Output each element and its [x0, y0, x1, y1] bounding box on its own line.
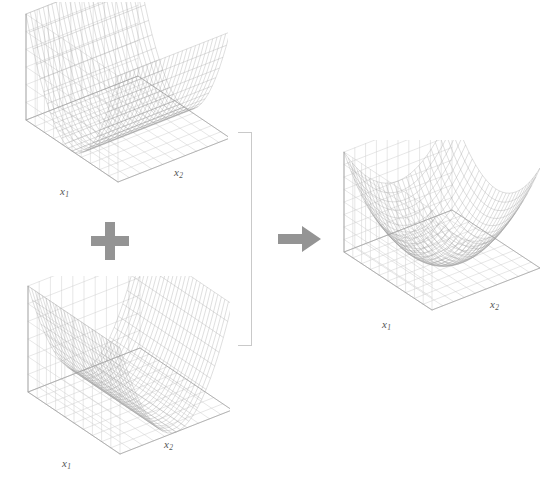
axis-label-x2-term-2: x2: [164, 438, 173, 450]
surface-mesh-result: [330, 140, 540, 355]
surface-mesh-term-2: [10, 276, 230, 484]
right-arrow-icon: [278, 224, 322, 254]
figure-canvas: x1 x2 x1 x2 x1 x2: [0, 0, 541, 486]
surface-mesh-term-1: [8, 2, 228, 217]
surface-plot-term-2: x1 x2: [10, 276, 230, 484]
plus-sign-icon: [91, 222, 129, 260]
surface-plot-result: x1 x2: [330, 140, 540, 355]
axis-label-x1-term-1: x1: [60, 185, 69, 197]
surface-plot-term-1: x1 x2: [8, 2, 228, 217]
plus-vertical-bar: [105, 222, 115, 260]
axis-label-x1-result: x1: [382, 318, 391, 330]
right-bracket-icon: [238, 132, 252, 346]
arrow-glyph: [278, 224, 322, 254]
axis-label-x2-result: x2: [490, 298, 499, 310]
axis-label-x1-term-2: x1: [62, 457, 71, 469]
axis-label-x2-term-1: x2: [174, 166, 183, 178]
